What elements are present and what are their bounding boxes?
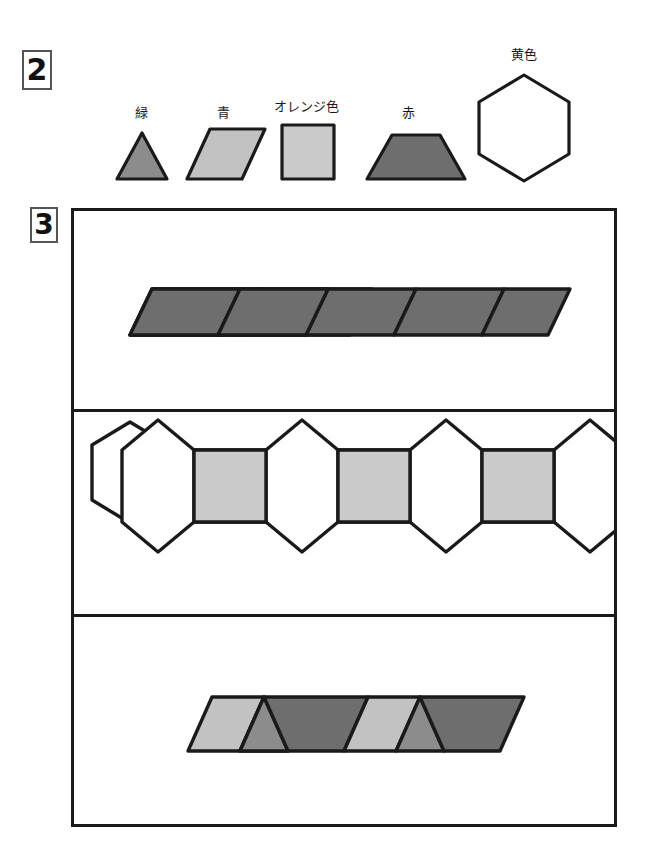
pattern-row-rhombus-triangle-strip <box>74 617 614 824</box>
red-trapezoid-icon <box>364 132 468 182</box>
green-triangle-icon <box>114 130 170 182</box>
legend-label-yellow: 黄色 <box>474 48 574 61</box>
legend-label-red: 赤 <box>375 106 441 119</box>
pattern-row-hexagon-square-chain <box>74 412 614 617</box>
legend-label-green: 緑 <box>108 106 174 119</box>
section-number-badge-3: 3 <box>30 207 58 243</box>
pattern-row-red-trapezoid-strip <box>74 211 614 412</box>
hexagon-square-chain <box>74 412 614 614</box>
orange-square-icon <box>279 122 337 182</box>
legend-label-orange: オレンジ色 <box>246 100 366 113</box>
shape-legend: 緑 青 オレンジ色 赤 黄色 <box>0 40 646 190</box>
pattern-panel <box>71 208 617 827</box>
worksheet-page: 2 緑 青 オレンジ色 赤 <box>0 0 646 867</box>
yellow-hexagon-icon <box>476 72 572 184</box>
blue-rhombus-icon <box>184 126 268 182</box>
rhombus-triangle-strip <box>74 617 614 821</box>
red-trapezoid-strip <box>74 211 614 409</box>
